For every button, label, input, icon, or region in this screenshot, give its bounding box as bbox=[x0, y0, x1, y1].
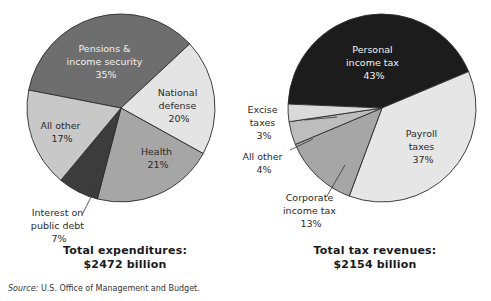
source-text: U.S. Office of Management and Budget. bbox=[38, 284, 199, 293]
total-expenditures-value: $2472 billion bbox=[50, 258, 200, 272]
label-interest: Interest on public debt 7% bbox=[31, 207, 87, 244]
total-revenues-label: Total tax revenues: bbox=[300, 244, 450, 258]
total-expenditures-label: Total expenditures: bbox=[50, 244, 200, 258]
total-tax-revenues: Total tax revenues: $2154 billion bbox=[300, 244, 450, 272]
label-excise-taxes: Excise taxes 3% bbox=[247, 104, 280, 141]
source-note: Source: U.S. Office of Management and Bu… bbox=[8, 284, 200, 293]
label-corporate-income-tax: Corporate income tax 13% bbox=[283, 192, 339, 229]
label-all-other-right: All other 4% bbox=[242, 151, 285, 175]
source-prefix: Source: bbox=[8, 284, 38, 293]
revenues-pie bbox=[288, 14, 476, 202]
total-revenues-value: $2154 billion bbox=[300, 258, 450, 272]
total-expenditures: Total expenditures: $2472 billion bbox=[50, 244, 200, 272]
